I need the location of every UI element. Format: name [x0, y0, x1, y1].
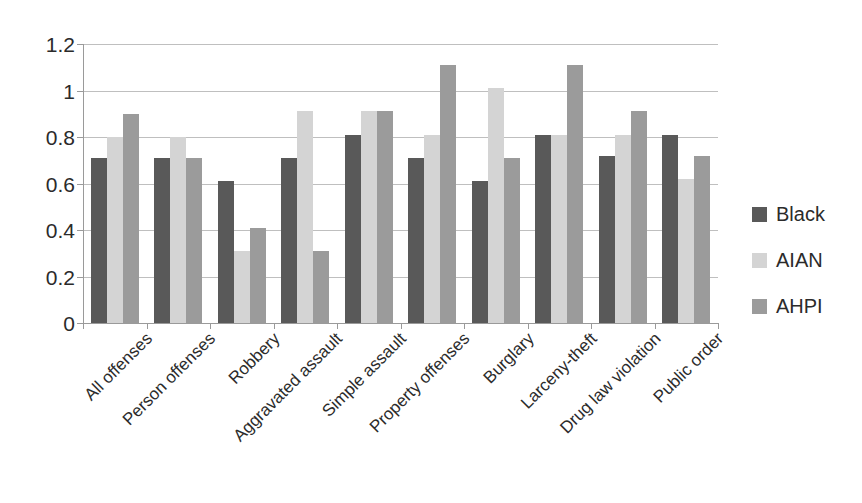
- y-axis-tick-label: 0.6: [13, 173, 75, 194]
- bar: [345, 135, 361, 323]
- legend-item: Black: [752, 191, 862, 237]
- bar: [662, 135, 678, 323]
- bar: [472, 181, 488, 323]
- legend-label: AIAN: [776, 250, 823, 270]
- x-axis-tick: [718, 323, 719, 329]
- bar: [631, 111, 647, 323]
- y-axis-tick-label: 1: [13, 80, 75, 101]
- bar-group: [337, 44, 401, 323]
- y-axis-tick-label: 0.2: [13, 266, 75, 287]
- bar: [694, 156, 710, 323]
- bar: [551, 135, 567, 323]
- bar: [567, 65, 583, 323]
- bar-group: [274, 44, 338, 323]
- x-axis-category-label: Aggravated assault: [230, 329, 347, 446]
- legend-item: AHPI: [752, 283, 862, 329]
- bar-groups: [83, 44, 718, 323]
- bar: [297, 111, 313, 323]
- chart-legend: BlackAIANAHPI: [752, 191, 862, 329]
- y-axis-tick-label: 0.4: [13, 220, 75, 241]
- bar: [615, 135, 631, 323]
- x-axis-category-label: Robbery: [224, 329, 284, 389]
- y-axis-tick-label: 0.8: [13, 127, 75, 148]
- bar-group: [464, 44, 528, 323]
- bar: [599, 156, 615, 323]
- bar: [678, 179, 694, 323]
- bar: [377, 111, 393, 323]
- bar: [170, 137, 186, 323]
- x-axis-category-labels: All offensesPerson offensesRobberyAggrav…: [83, 329, 718, 499]
- bar: [91, 158, 107, 323]
- bar-group: [655, 44, 719, 323]
- bar-group: [210, 44, 274, 323]
- bar: [107, 137, 123, 323]
- bar: [313, 251, 329, 323]
- bar-group: [401, 44, 465, 323]
- bar: [123, 114, 139, 323]
- bar: [154, 158, 170, 323]
- bar-group: [528, 44, 592, 323]
- bar: [440, 65, 456, 323]
- bar: [186, 158, 202, 323]
- bar-group: [591, 44, 655, 323]
- legend-item: AIAN: [752, 237, 862, 283]
- bar: [234, 251, 250, 323]
- y-axis-labels: 1.210.80.60.40.20: [8, 0, 75, 503]
- bar-group: [83, 44, 147, 323]
- bar: [504, 158, 520, 323]
- bar-group: [147, 44, 211, 323]
- bar: [281, 158, 297, 323]
- bar: [361, 111, 377, 323]
- y-axis-tick-label: 1.2: [13, 34, 75, 55]
- bar: [488, 88, 504, 323]
- legend-label: AHPI: [776, 296, 823, 316]
- legend-swatch: [752, 253, 767, 268]
- bar: [424, 135, 440, 323]
- bar: [250, 228, 266, 323]
- bar: [218, 181, 234, 323]
- legend-swatch: [752, 299, 767, 314]
- y-axis-tick-label: 0: [13, 313, 75, 334]
- bar: [408, 158, 424, 323]
- bar-chart: 1.210.80.60.40.20 All offensesPerson off…: [0, 0, 862, 503]
- x-axis-category-label: Burglary: [479, 329, 538, 388]
- bar: [535, 135, 551, 323]
- legend-swatch: [752, 207, 767, 222]
- legend-label: Black: [776, 204, 825, 224]
